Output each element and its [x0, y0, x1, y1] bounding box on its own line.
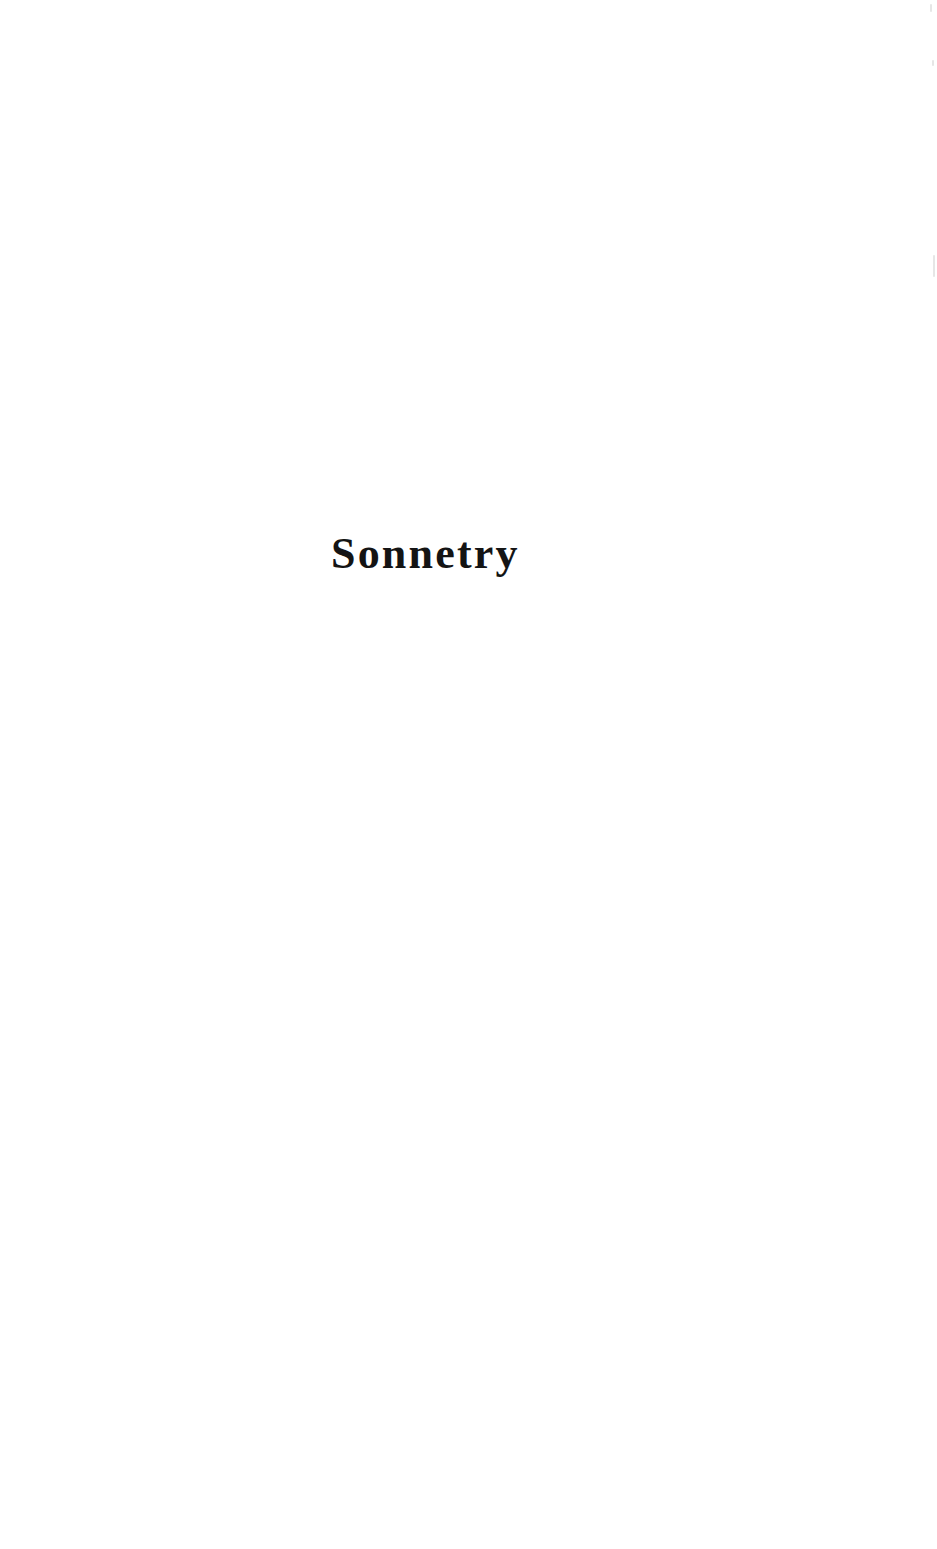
book-page: Sonnetry — [0, 0, 937, 1549]
scan-speck — [930, 4, 932, 12]
section-title: Sonnetry — [331, 526, 520, 582]
scan-speck — [933, 255, 935, 277]
scan-speck — [932, 60, 934, 66]
